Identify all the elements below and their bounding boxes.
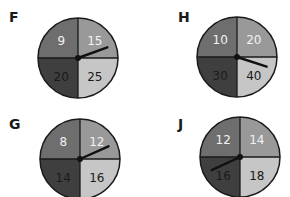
sector-value-bottom-right: 18 [249, 169, 264, 183]
spinner-hub [234, 54, 240, 60]
sector-value-bottom-left: 16 [216, 169, 231, 183]
sector-value-bottom-right: 16 [89, 171, 104, 185]
spinner-hub [75, 55, 81, 61]
sector-value-top-right: 15 [87, 34, 102, 48]
sector-value-top-left: 9 [57, 34, 65, 48]
sector-value-bottom-right: 25 [87, 70, 102, 84]
spinner-g: 8121416 [40, 119, 120, 197]
sector-value-top-left: 10 [213, 33, 228, 47]
sector-value-top-right: 20 [246, 33, 261, 47]
spinners-diagram: 915202510203040812141612141618 [0, 0, 290, 197]
sector-value-top-left: 12 [216, 133, 231, 147]
sector-value-top-right: 12 [89, 135, 104, 149]
spinner-h: 10203040 [197, 17, 277, 97]
spinner-j: 12141618 [200, 117, 280, 197]
spinner-hub [237, 154, 243, 160]
sector-value-top-right: 14 [249, 133, 264, 147]
spinner-hub [77, 156, 83, 162]
sector-value-bottom-left: 20 [54, 70, 69, 84]
sector-value-bottom-right: 40 [246, 69, 261, 83]
sector-value-top-left: 8 [59, 135, 67, 149]
sector-value-bottom-left: 14 [56, 171, 71, 185]
spinner-f: 9152025 [38, 18, 118, 98]
sector-value-bottom-left: 30 [213, 69, 228, 83]
